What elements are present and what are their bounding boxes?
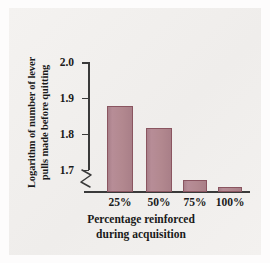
y-axis-tick-label: 1.8 [60,128,74,140]
axis-break-icon [79,168,99,194]
y-axis-title: Logarithm of number of lever pulls made … [26,33,51,213]
y-axis-tick: 1.9 [82,98,89,100]
y-axis-tick: 1.8 [82,134,89,136]
bar [183,180,207,193]
bar [107,106,133,192]
bar [218,187,242,192]
bar-fill [219,188,241,191]
bar-fill [108,107,132,191]
x-axis-tick-label: 50% [148,196,171,208]
y-axis-title-line-2: pulls made before quitting [38,33,51,213]
y-axis-tick-label: 2.0 [60,56,74,68]
y-axis-tick: 2.0 [82,62,89,64]
x-axis-title: Percentage reinforced during acquisition [36,212,246,241]
bar-fill [184,181,206,192]
x-axis-tick-label: 100% [216,196,245,208]
y-axis-tick-label: 1.9 [60,92,74,104]
x-axis-title-line-2: during acquisition [36,227,246,242]
y-axis-tick-label: 1.7 [60,164,74,176]
x-axis-tick-label: 25% [109,196,132,208]
y-axis-line [88,62,90,170]
y-axis-title-line-1: Logarithm of number of lever [26,33,39,213]
bar-fill [147,129,171,192]
plot-area: 2.01.91.81.7 25%50%75%100% [88,62,250,192]
bar [146,128,172,193]
x-axis-tick-label: 75% [184,196,207,208]
x-axis-title-line-1: Percentage reinforced [36,212,246,227]
figure: Logarithm of number of lever pulls made … [0,0,270,263]
